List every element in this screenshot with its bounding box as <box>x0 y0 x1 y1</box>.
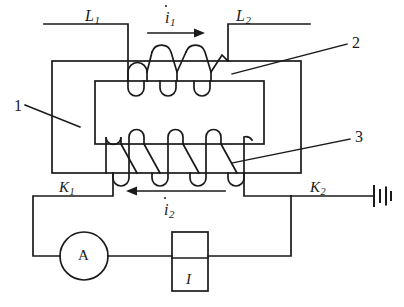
label-secondary-current: i2 <box>164 202 174 220</box>
source-to-k2-wire <box>208 196 291 256</box>
label-primary-current: i1 <box>165 10 175 28</box>
primary-coil-winding <box>128 45 228 96</box>
callout-number-secondary-coil: 3 <box>355 129 363 145</box>
label-current-source: I <box>186 272 191 287</box>
callout-number-primary-coil: 2 <box>352 35 360 51</box>
callout-number-core: 1 <box>14 98 22 114</box>
label-switch-k2: K2 <box>310 180 326 197</box>
primary-lead-right-wire <box>228 24 310 61</box>
label-primary-terminal-left: L1 <box>85 8 100 26</box>
callout-leader-secondary-coil <box>232 139 350 163</box>
primary-lead-left-wire <box>44 24 128 81</box>
circuit-diagram-svg <box>0 0 404 307</box>
secondary-current-arrow-head <box>126 187 137 196</box>
label-primary-terminal-right: L2 <box>236 8 251 26</box>
battery-symbol <box>374 186 391 206</box>
inner-core-window-rect <box>95 81 264 144</box>
label-switch-k1: K1 <box>59 180 75 197</box>
diagram-canvas: L1 L2 i1 i2 K1 K2 A I 1 2 3 <box>0 0 404 307</box>
label-ammeter: A <box>78 248 89 263</box>
callout-leader-primary-coil <box>232 44 347 74</box>
primary-current-arrow-head <box>194 29 205 38</box>
